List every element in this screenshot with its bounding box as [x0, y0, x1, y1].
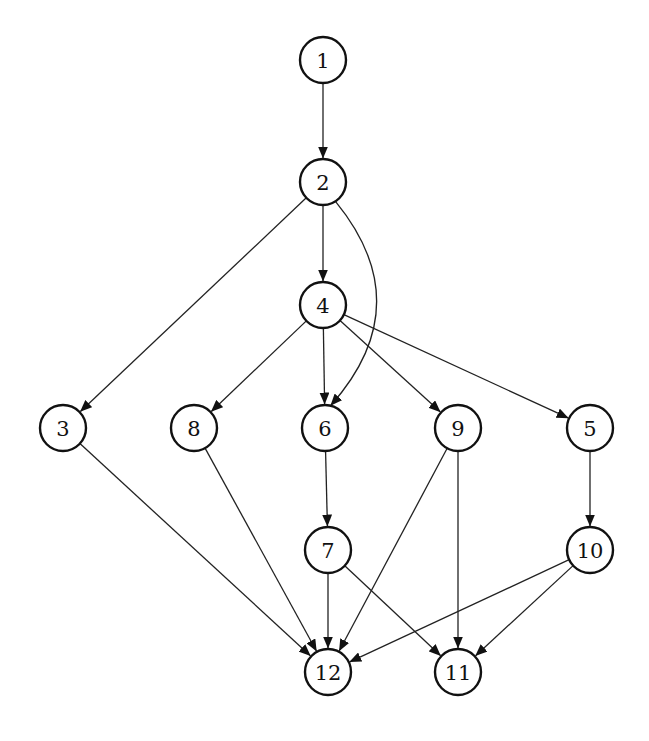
- node-6: 6: [302, 405, 348, 451]
- graph-canvas: 124386957101211: [0, 0, 649, 741]
- node-7: 7: [305, 527, 351, 573]
- edge-10-to-12: [350, 560, 569, 662]
- node-label: 5: [583, 417, 596, 441]
- edge-10-to-11: [476, 566, 573, 656]
- node-label: 12: [315, 661, 342, 685]
- edge-4-to-5: [344, 315, 568, 418]
- node-10: 10: [567, 527, 613, 573]
- node-label: 1: [316, 49, 329, 73]
- node-label: 10: [577, 539, 604, 563]
- edge-2-to-3: [80, 198, 306, 412]
- nodes-layer: 124386957101211: [40, 37, 613, 695]
- node-label: 4: [316, 294, 329, 318]
- node-4: 4: [300, 282, 346, 328]
- node-label: 2: [316, 171, 329, 195]
- edge-4-to-8: [211, 321, 306, 412]
- node-11: 11: [435, 649, 481, 695]
- node-1: 1: [300, 37, 346, 83]
- edge-8-to-12: [205, 448, 316, 651]
- node-label: 6: [318, 417, 331, 441]
- node-12: 12: [305, 649, 351, 695]
- edge-3-to-12: [80, 444, 310, 656]
- node-label: 11: [445, 661, 472, 685]
- edge-6-to-7: [326, 451, 328, 526]
- node-9: 9: [435, 405, 481, 451]
- node-2: 2: [300, 159, 346, 205]
- node-label: 7: [321, 539, 334, 563]
- node-label: 9: [451, 417, 464, 441]
- edge-4-to-6: [323, 328, 324, 404]
- node-label: 8: [187, 417, 200, 441]
- node-5: 5: [567, 405, 613, 451]
- edge-4-to-9: [340, 320, 440, 411]
- edge-9-to-12: [339, 448, 447, 651]
- node-label: 3: [56, 417, 69, 441]
- node-8: 8: [171, 405, 217, 451]
- node-3: 3: [40, 405, 86, 451]
